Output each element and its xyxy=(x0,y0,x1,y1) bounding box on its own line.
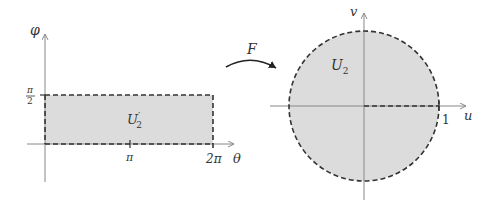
v-label: v xyxy=(350,4,358,19)
half-pi-denominator: 2 xyxy=(27,96,33,106)
diagram-canvas: φ π 2 U′2 π 2π θ F v u 1 U2 xyxy=(0,0,493,207)
phi-label: φ xyxy=(30,22,40,38)
unit-label: 1 xyxy=(442,113,450,127)
right-diagram: v u 1 U2 xyxy=(270,4,472,200)
half-pi-numerator: π xyxy=(26,85,34,95)
mapping-label: F xyxy=(246,41,258,57)
curved-arrow xyxy=(226,60,276,68)
u-label: u xyxy=(464,108,472,123)
theta-label: θ xyxy=(233,151,241,166)
left-diagram: φ π 2 U′2 π 2π θ xyxy=(26,22,241,182)
pi-label: π xyxy=(125,151,134,164)
mapping-arrow: F xyxy=(226,41,276,68)
two-pi-label: 2π xyxy=(205,152,223,166)
